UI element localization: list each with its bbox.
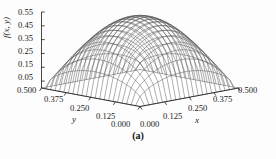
y-axis-title: y <box>72 115 76 124</box>
x-axis-title: x <box>195 116 199 125</box>
z-tick-label-0: 0.55 <box>18 8 33 17</box>
figure-caption: (a) <box>0 131 276 141</box>
x-tick-label-0: 0.000 <box>140 120 159 129</box>
z-tick-label-3: 0.25 <box>18 47 33 56</box>
x-tick-label-3: 0.375 <box>213 95 232 104</box>
figure-panel: f(x, y) 0.55 0.45 0.35 0.25 0.15 0.05 0.… <box>0 0 276 159</box>
z-tick-label-5: 0.05 <box>18 73 33 82</box>
z-tick-label-4: 0.15 <box>18 60 33 69</box>
x-tick-label-4: 0.500 <box>238 86 257 95</box>
x-tick-label-1: 0.125 <box>163 112 182 121</box>
z-axis-title: f(x, y) <box>2 17 11 38</box>
surface-wireframe-mesh <box>42 15 239 106</box>
z-tick-label-2: 0.35 <box>18 34 33 43</box>
y-tick-label-1: 0.375 <box>44 95 63 104</box>
z-tick-label-1: 0.45 <box>18 21 33 30</box>
y-tick-label-0: 0.500 <box>17 86 36 95</box>
x-tick-label-2: 0.250 <box>188 104 207 113</box>
y-tick-label-2: 0.250 <box>70 104 89 113</box>
y-tick-label-4: 0.000 <box>111 120 130 129</box>
